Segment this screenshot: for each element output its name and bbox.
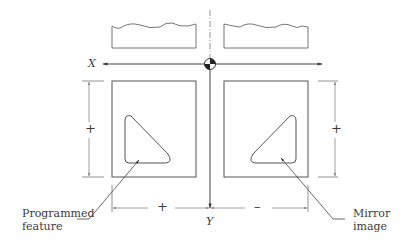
- bottom-left-sign: +: [157, 200, 168, 213]
- programmed-line2: feature: [22, 220, 95, 233]
- mirror-line1: Mirror: [353, 207, 390, 220]
- right-vertical-sign: +: [331, 122, 342, 135]
- x-axis-label: X: [88, 57, 96, 70]
- left-vertical-sign: +: [85, 122, 96, 135]
- programmed-feature-callout: Programmed feature: [22, 207, 95, 233]
- bottom-right-sign: –: [254, 200, 261, 213]
- mirror-line2: image: [353, 220, 390, 233]
- stock-right: [224, 24, 308, 48]
- mirror-image-callout: Mirror image: [353, 207, 390, 233]
- stock-left: [112, 23, 196, 48]
- programmed-line1: Programmed: [22, 207, 95, 220]
- programmed-triangle: [125, 116, 170, 163]
- y-axis-label: Y: [206, 215, 213, 228]
- mirror-triangle: [251, 116, 296, 163]
- mirror-image-diagram: X Y + + + – Programmed feature Mirror im…: [0, 0, 401, 244]
- origin-symbol: [205, 59, 216, 70]
